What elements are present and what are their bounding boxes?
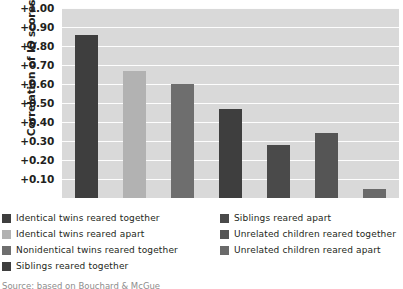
legend-item[interactable]: Identical twins reared apart: [2, 226, 217, 242]
bars: [62, 8, 399, 198]
bar: [123, 71, 146, 198]
bar: [267, 145, 290, 198]
y-tick-label: +0.40: [20, 116, 54, 128]
y-axis-tick-labels: +1.00+0.90+0.80+0.70+0.60+0.50+0.40+0.30…: [0, 8, 58, 198]
legend-item-label: Nonidentical twins reared together: [16, 245, 178, 255]
bar: [219, 109, 242, 198]
legend-item[interactable]: Identical twins reared together: [2, 210, 217, 226]
iq-correlation-bar-chart: Correlation of IQ scores +1.00+0.90+0.80…: [0, 0, 403, 289]
legend-swatch-icon: [220, 214, 229, 223]
y-tick-label: +0.10: [20, 173, 54, 185]
legend-item[interactable]: Nonidentical twins reared together: [2, 242, 217, 258]
legend-item-label: Identical twins reared apart: [16, 229, 144, 239]
y-tick-label: +0.50: [20, 97, 54, 109]
y-tick-label: +0.20: [20, 154, 54, 166]
legend-item[interactable]: Unrelated children reared together: [220, 226, 403, 242]
bar: [75, 35, 98, 198]
y-tick-label: +0.90: [20, 21, 54, 33]
legend-item-label: Identical twins reared together: [16, 213, 160, 223]
bar: [171, 84, 194, 198]
bar: [315, 133, 338, 198]
legend-item-label: Siblings reared apart: [234, 213, 331, 223]
plot-area: [62, 8, 399, 198]
legend-column-left: Identical twins reared togetherIdentical…: [2, 210, 217, 274]
y-tick-label: +1.00: [20, 2, 54, 14]
legend-item-label: Unrelated children reared together: [234, 229, 396, 239]
legend-swatch-icon: [2, 230, 11, 239]
caption-sliver: Source: based on Bouchard & McGue: [2, 281, 262, 289]
legend-item-label: Siblings reared together: [16, 261, 128, 271]
chart-legend: Identical twins reared togetherIdentical…: [2, 210, 401, 282]
legend-item[interactable]: Siblings reared apart: [220, 210, 403, 226]
legend-item[interactable]: Unrelated children reared apart: [220, 242, 403, 258]
y-tick-label: +0.70: [20, 59, 54, 71]
y-tick-label: +0.80: [20, 40, 54, 52]
legend-swatch-icon: [2, 246, 11, 255]
y-tick-label: +0.60: [20, 78, 54, 90]
legend-swatch-icon: [2, 214, 11, 223]
legend-swatch-icon: [220, 246, 229, 255]
legend-swatch-icon: [220, 230, 229, 239]
y-tick-label: +0.30: [20, 135, 54, 147]
legend-item[interactable]: Siblings reared together: [2, 258, 217, 274]
legend-item-label: Unrelated children reared apart: [234, 245, 381, 255]
legend-column-right: Siblings reared apartUnrelated children …: [220, 210, 403, 258]
bar: [363, 189, 386, 199]
legend-swatch-icon: [2, 262, 11, 271]
